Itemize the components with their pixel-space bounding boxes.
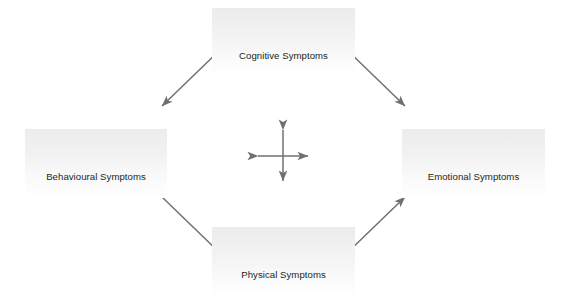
node-physical[interactable]: Physical Symptoms [212, 227, 355, 296]
node-cognitive[interactable]: Cognitive Symptoms [212, 8, 355, 77]
diagram-canvas: Cognitive Symptoms Emotional Symptoms Ph… [0, 0, 563, 302]
node-physical-label: Physical Symptoms [241, 270, 326, 296]
node-behavioural-label: Behavioural Symptoms [46, 172, 146, 198]
node-cognitive-label: Cognitive Symptoms [239, 51, 328, 77]
node-emotional-label: Emotional Symptoms [428, 172, 520, 198]
node-emotional[interactable]: Emotional Symptoms [402, 129, 545, 198]
four-way-arrow-icon [258, 130, 308, 181]
node-behavioural[interactable]: Behavioural Symptoms [25, 129, 167, 198]
